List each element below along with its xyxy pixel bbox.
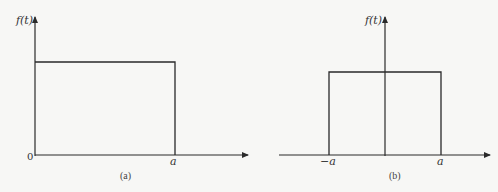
diagram-canvas <box>0 0 498 192</box>
caption-b: (b) <box>389 170 401 181</box>
pulse-a <box>35 62 175 155</box>
origin-label-a: 0 <box>27 151 33 162</box>
caption-a: (a) <box>120 170 131 181</box>
x-tick-label-neg-a: −a <box>320 155 336 168</box>
y-axis-label-a: f(t) <box>16 14 33 27</box>
x-tick-label-a: a <box>170 155 177 168</box>
diagram-b <box>279 17 490 156</box>
diagram-a <box>35 17 248 156</box>
x-tick-label-pos-a: a <box>437 155 444 168</box>
y-axis-label-b: f(t) <box>365 14 382 27</box>
